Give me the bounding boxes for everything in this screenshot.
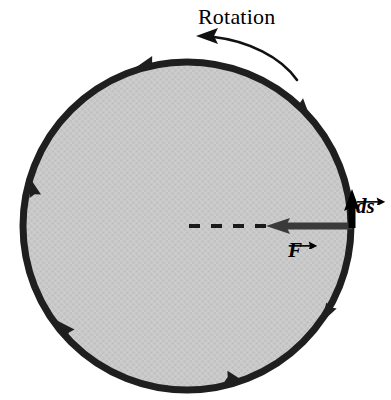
force-vector-label: F xyxy=(288,240,302,261)
displacement-vector-label: ds xyxy=(356,196,375,217)
displacement-vector-label-text: ds xyxy=(356,194,375,218)
diagram-canvas xyxy=(0,0,391,400)
rotation-label: Rotation xyxy=(198,6,275,28)
physics-diagram-rotating-disk: Rotation ds F xyxy=(0,0,391,400)
force-vector-label-text: F xyxy=(288,238,302,262)
